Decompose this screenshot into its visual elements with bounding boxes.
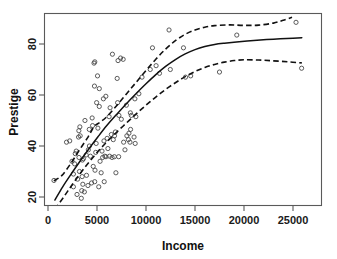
y-tick-label: 60 [26, 89, 38, 101]
data-point [90, 124, 94, 128]
x-axis-title: Income [162, 239, 204, 253]
y-tick-label: 20 [26, 191, 38, 203]
data-point [119, 117, 123, 121]
scatter-plot-figure: 0500010000150002000025000 20406080 Incom… [0, 0, 337, 259]
data-point [168, 67, 172, 71]
data-point [294, 20, 298, 24]
data-point [128, 127, 132, 131]
data-point [140, 75, 144, 79]
data-point [100, 149, 104, 153]
data-point [78, 125, 82, 129]
data-point [116, 58, 120, 62]
data-point [133, 141, 137, 145]
data-point [98, 159, 102, 163]
y-tick-label: 80 [26, 38, 38, 50]
data-point [106, 146, 110, 150]
x-axis-tick-marks [48, 206, 293, 212]
data-point [73, 162, 77, 166]
data-point [167, 28, 171, 32]
data-point [93, 60, 97, 64]
data-point [92, 84, 96, 88]
y-axis-title: Prestige [7, 88, 21, 136]
x-tick-label: 10000 [131, 214, 162, 226]
data-point [101, 97, 105, 101]
data-point [123, 148, 127, 152]
upper-confidence-band [54, 17, 292, 181]
data-point [97, 185, 101, 189]
y-tick-label: 40 [26, 140, 38, 152]
data-point [99, 171, 103, 175]
plot-canvas: 0500010000150002000025000 20406080 Incom… [0, 0, 337, 259]
data-point [79, 196, 83, 200]
x-tick-label: 20000 [229, 214, 260, 226]
data-point [117, 155, 121, 159]
data-point [95, 101, 99, 105]
data-point [110, 52, 114, 56]
data-point-group [52, 20, 304, 211]
x-tick-label: 15000 [180, 214, 211, 226]
x-tick-label: 25000 [278, 214, 309, 226]
data-point [122, 140, 126, 144]
data-point [93, 168, 97, 172]
data-point [128, 111, 132, 115]
data-point [102, 180, 106, 184]
data-point [115, 76, 119, 80]
plot-frame [45, 14, 322, 206]
y-axis-tick-labels: 20406080 [26, 38, 38, 203]
data-point [104, 94, 108, 98]
data-point [62, 207, 66, 211]
x-tick-label: 0 [45, 214, 51, 226]
data-point [154, 64, 158, 68]
data-point [108, 106, 112, 110]
y-axis-tick-marks [39, 44, 45, 197]
data-point [75, 192, 79, 196]
data-point [300, 66, 304, 70]
data-point [129, 113, 133, 117]
lower-confidence-band [55, 60, 302, 209]
data-point [235, 33, 239, 37]
data-point [81, 182, 85, 186]
data-point [97, 104, 101, 108]
data-point [181, 46, 185, 50]
data-point [97, 87, 101, 91]
data-point [95, 74, 99, 78]
data-point [114, 171, 118, 175]
data-point [96, 126, 100, 130]
data-point [217, 70, 221, 74]
data-point [83, 118, 87, 122]
x-tick-label: 5000 [85, 214, 109, 226]
data-point [150, 46, 154, 50]
data-point [80, 175, 84, 179]
data-point [90, 116, 94, 120]
data-point [84, 173, 88, 177]
x-axis-tick-labels: 0500010000150002000025000 [45, 214, 308, 226]
data-point [132, 135, 136, 139]
